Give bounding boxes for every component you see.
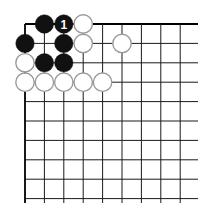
black-stone: [55, 54, 73, 72]
white-stone: [93, 73, 111, 91]
black-stone: [55, 34, 73, 52]
white-stone: [55, 73, 73, 91]
white-stone: [74, 34, 92, 52]
black-stone: [16, 34, 34, 52]
white-stone: [74, 15, 92, 33]
white-stone: [74, 73, 92, 91]
stones-layer: 1: [16, 15, 131, 92]
black-stone: [35, 15, 53, 33]
go-board: 1: [0, 0, 210, 217]
black-stone: [35, 54, 53, 72]
board-grid: [25, 24, 198, 203]
white-stone: [113, 34, 131, 52]
move-number-label: 1: [60, 18, 67, 32]
white-stone: [16, 54, 34, 72]
white-stone: [35, 73, 53, 91]
white-stone: [16, 73, 34, 91]
